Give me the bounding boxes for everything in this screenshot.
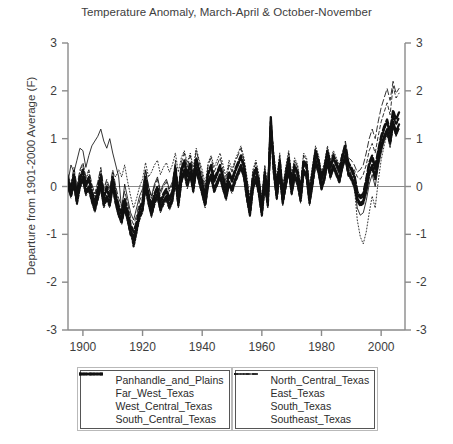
y-tick-label-right: 3 <box>416 36 423 50</box>
y-tick-label-left: 0 <box>50 180 57 194</box>
legend-box-right: North_Central_TexasEast_TexasSouth_Texas… <box>232 367 378 431</box>
y-tick-label-right: 2 <box>416 84 423 98</box>
legend-item[interactable]: Panhandle_and_Plains <box>85 374 224 386</box>
legend-line-sample-icon <box>85 387 111 399</box>
chart-container: Temperature Anomaly, March-April & Octob… <box>0 0 453 444</box>
legend-item[interactable]: South_Texas <box>240 400 370 412</box>
legend-item-label: Panhandle_and_Plains <box>116 374 224 386</box>
legend-item-label: East_Texas <box>271 387 325 399</box>
legend-box-left: Panhandle_and_PlainsFar_West_TexasWest_C… <box>77 367 232 431</box>
y-tick-label-right: -1 <box>416 227 427 241</box>
y-tick-label-right: 1 <box>416 132 423 146</box>
y-tick-label-right: -3 <box>416 323 427 337</box>
legend-item-label: South_Texas <box>271 400 332 412</box>
y-tick-label-left: 3 <box>50 36 57 50</box>
y-tick-label-left: 2 <box>50 84 57 98</box>
legend-line-sample-icon <box>85 413 111 425</box>
legend-item-label: South_Central_Texas <box>116 413 216 425</box>
y-tick-label-right: 0 <box>416 180 423 194</box>
legend-item-label: Far_West_Texas <box>116 387 195 399</box>
legend-item-label: West_Central_Texas <box>116 400 213 412</box>
x-tick-label: 1940 <box>189 340 216 354</box>
y-tick-label-right: -2 <box>416 275 427 289</box>
x-tick-label: 1980 <box>308 340 335 354</box>
legend-line-sample-icon <box>240 387 266 399</box>
legend-item[interactable]: West_Central_Texas <box>85 400 224 412</box>
x-tick-label: 1920 <box>129 340 156 354</box>
legend-line-sample-icon <box>85 400 111 412</box>
legend-item-label: North_Central_Texas <box>271 374 370 386</box>
x-tick-label: 1900 <box>70 340 97 354</box>
x-tick-label: 2000 <box>368 340 395 354</box>
y-tick-label-left: -1 <box>46 227 57 241</box>
legend-line-sample-icon <box>240 400 266 412</box>
legend-item[interactable]: Far_West_Texas <box>85 387 224 399</box>
legend-item[interactable]: Southeast_Texas <box>240 413 370 425</box>
legend-item[interactable]: South_Central_Texas <box>85 413 224 425</box>
series-line-far-west-texas <box>68 115 399 247</box>
legend-item[interactable]: East_Texas <box>240 387 370 399</box>
legend-item-label: Southeast_Texas <box>271 413 352 425</box>
y-tick-label-left: 1 <box>50 132 57 146</box>
y-tick-label-left: -2 <box>46 275 57 289</box>
legend-line-sample-icon <box>240 413 266 425</box>
x-tick-label: 1960 <box>248 340 275 354</box>
y-tick-label-left: -3 <box>46 323 57 337</box>
